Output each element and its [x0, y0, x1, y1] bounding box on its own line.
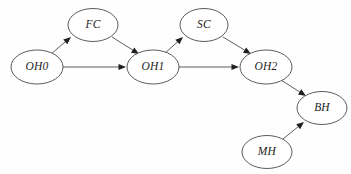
arrowhead-icon [119, 64, 127, 70]
edge-oh0-to-fc [51, 37, 71, 54]
node-label: OH0 [26, 60, 49, 72]
arrowhead-icon [243, 47, 251, 54]
edge-oh0-to-oh1 [63, 64, 126, 70]
node-label: MH [257, 145, 277, 157]
node-label: BH [314, 101, 330, 113]
edge-oh1-to-sc [164, 37, 183, 54]
node-mh[interactable]: MH [242, 136, 292, 169]
edge-line [283, 126, 299, 139]
edge-line [223, 37, 246, 51]
edge-fc-to-oh1 [112, 37, 139, 54]
node-oh2[interactable]: OH2 [240, 50, 292, 84]
node-label: OH2 [255, 60, 278, 72]
edge-line [112, 37, 134, 51]
node-fc[interactable]: FC [68, 9, 118, 42]
diagram-canvas: OH0FCOH1SCOH2BHMH [0, 0, 351, 174]
edge-line [281, 80, 301, 93]
arrowhead-icon [296, 122, 304, 129]
edge-line [51, 41, 66, 54]
graph-svg: OH0FCOH1SCOH2BHMH [0, 0, 351, 174]
node-sc[interactable]: SC [180, 9, 228, 42]
edge-sc-to-oh2 [223, 37, 251, 54]
edge-oh2-to-bh [281, 80, 306, 96]
arrowhead-icon [232, 64, 240, 70]
node-oh0[interactable]: OH0 [11, 50, 63, 84]
node-label: OH1 [142, 60, 165, 72]
arrowhead-icon [298, 89, 306, 96]
node-label: FC [84, 18, 100, 30]
node-oh1[interactable]: OH1 [127, 50, 179, 84]
node-layer: OH0FCOH1SCOH2BHMH [11, 9, 347, 169]
node-label: SC [197, 18, 211, 30]
node-bh[interactable]: BH [297, 92, 347, 125]
edge-mh-to-bh [283, 122, 304, 139]
edge-oh1-to-oh2 [179, 64, 239, 70]
